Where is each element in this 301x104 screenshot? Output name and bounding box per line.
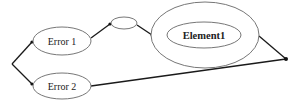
- error2-label: Error 2: [48, 81, 77, 92]
- edge-start-to-error1: [12, 42, 32, 64]
- node-element1[interactable]: Element1: [167, 22, 241, 48]
- error1-label: Error 1: [48, 36, 77, 47]
- node-error1[interactable]: Error 1: [33, 27, 91, 55]
- edge-start-to-error2: [12, 64, 32, 84]
- edge-outer-to-end: [259, 36, 286, 59]
- small-ellipse: [111, 17, 137, 29]
- diagram-canvas: Error 1 Error 2 Element1: [0, 0, 301, 104]
- node-small[interactable]: [111, 17, 137, 29]
- edge-small-to-outer: [137, 25, 152, 35]
- element1-label: Element1: [183, 30, 226, 41]
- node-error2[interactable]: Error 2: [33, 73, 91, 99]
- edge-error1-to-small: [91, 24, 110, 38]
- end-node-dot: [284, 57, 288, 61]
